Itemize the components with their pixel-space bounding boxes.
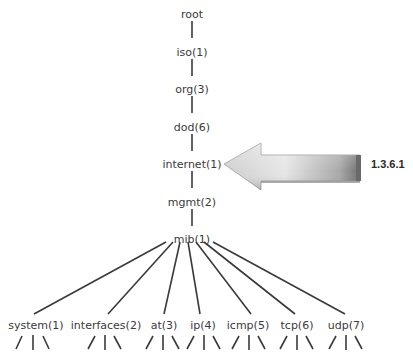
node-at: at(3)	[151, 319, 178, 332]
mib-child-edges	[34, 242, 345, 314]
mib-tree-diagram: root iso(1) org(3) dod(6) internet(1) mg…	[0, 0, 413, 363]
icmp-stubs	[232, 335, 265, 350]
node-org: org(3)	[175, 83, 209, 96]
interfaces-stubs	[88, 335, 121, 350]
node-ip: ip(4)	[190, 319, 216, 332]
node-dod: dod(6)	[174, 121, 210, 134]
node-internet: internet(1)	[162, 158, 221, 171]
ip-stubs	[187, 335, 220, 350]
grandchild-stubs	[16, 335, 362, 350]
node-udp: udp(7)	[328, 319, 365, 332]
node-root: root	[181, 8, 204, 21]
node-mgmt: mgmt(2)	[168, 196, 216, 209]
callout-arrow-icon	[224, 143, 361, 190]
child-labels: system(1) interfaces(2) at(3) ip(4) icmp…	[8, 319, 364, 332]
node-interfaces: interfaces(2)	[71, 319, 141, 332]
node-mib: mib(1)	[174, 233, 210, 246]
udp-stubs	[329, 335, 362, 350]
node-iso: iso(1)	[176, 46, 207, 59]
node-tcp: tcp(6)	[281, 319, 314, 332]
tcp-stubs	[280, 335, 313, 350]
node-icmp: icmp(5)	[227, 319, 269, 332]
at-stubs	[146, 335, 179, 350]
node-system: system(1)	[8, 319, 63, 332]
system-stubs	[16, 335, 49, 350]
oid-label: 1.3.6.1	[371, 158, 405, 170]
